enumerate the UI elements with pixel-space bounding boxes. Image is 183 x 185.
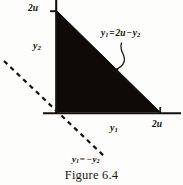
dash-eq-negate: − — [86, 154, 93, 164]
dash-eq-equals: = — [79, 154, 86, 164]
x-axis-label-subscript: 1 — [114, 126, 117, 133]
shaded-feasible-region — [57, 11, 160, 112]
annotation-arrow-curve — [114, 43, 124, 70]
eq-term-2u: 2u — [116, 28, 126, 38]
hypotenuse-equation-label: y1=2u−y2 — [101, 29, 140, 39]
dash-eq-rhs-subscript: 2 — [97, 158, 100, 164]
figure-6-4: 2u y2 y1=2u−y2 y1 2u y1=−y2 Figure 6.4 — [0, 0, 183, 185]
y-axis-tick-label-2u: 2u — [28, 4, 38, 14]
figure-caption: Figure 6.4 — [0, 168, 183, 183]
eq-minus: − — [126, 28, 133, 38]
x-axis-label: y1 — [110, 123, 118, 134]
dashed-line-equation-label: y1=−y2 — [72, 155, 100, 164]
y-axis-label: y2 — [33, 41, 41, 52]
y-axis-label-subscript: 2 — [37, 44, 40, 51]
eq-equals: = — [108, 28, 115, 38]
eq-rhs-subscript: 2 — [137, 31, 140, 38]
x-axis-tick-label-2u: 2u — [152, 120, 162, 130]
